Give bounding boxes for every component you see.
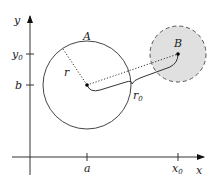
circle-b-label: B [173, 37, 182, 50]
diagram: y x y0 b a x0 A B r r0 [0, 0, 217, 185]
x-tick-label-a: a [84, 162, 91, 175]
center-b [176, 52, 180, 56]
circle-a-label: A [82, 30, 91, 43]
y-tick-label-y0: y0 [11, 48, 23, 62]
y-tick-label-b: b [15, 79, 22, 92]
y-axis-label: y [13, 14, 21, 27]
distance-label: r0 [133, 89, 143, 103]
x-tick-label-x0: x0 [172, 162, 183, 176]
radius-label: r [64, 66, 70, 79]
center-a [85, 83, 89, 87]
x-axis-label: x [196, 164, 203, 177]
